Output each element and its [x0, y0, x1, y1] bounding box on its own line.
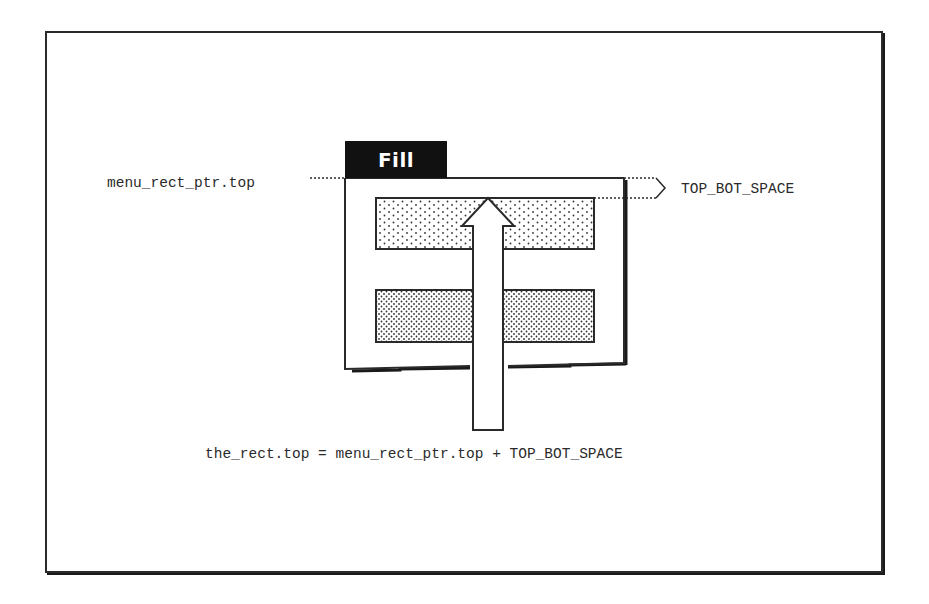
- menu-tab: [345, 141, 447, 178]
- formula-label: the_rect.top = menu_rect_ptr.top + TOP_B…: [205, 447, 623, 462]
- right-marker-label: TOP_BOT_SPACE: [681, 182, 794, 197]
- right-marker-bracket: [594, 178, 665, 198]
- left-marker-label: menu_rect_ptr.top: [107, 176, 255, 191]
- diagram-canvas: [0, 0, 929, 604]
